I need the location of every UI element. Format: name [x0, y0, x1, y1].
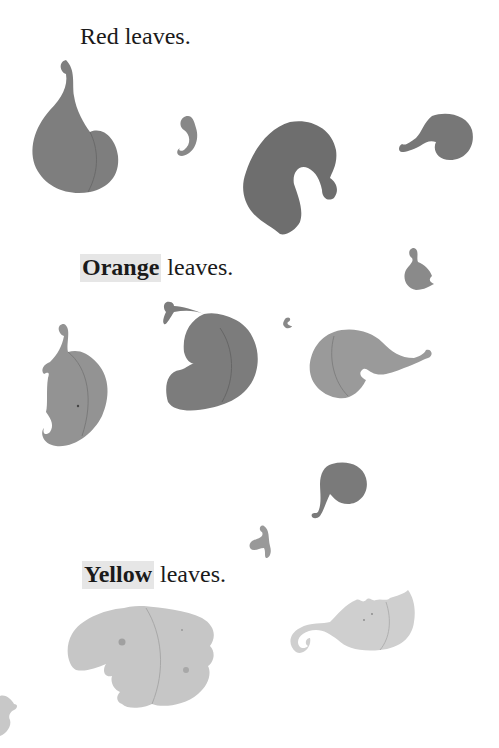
red-leaf-small-curl-icon — [174, 114, 204, 158]
yellow-leaf-large-icon — [66, 604, 220, 710]
orange-leaf-round-stem-icon — [160, 298, 264, 414]
yellow-leaf-curl-tail-icon — [290, 590, 418, 656]
orange-leaf-small-curl-icon — [246, 524, 274, 560]
caption-text: Red leaves. — [80, 23, 191, 49]
yellow-leaf-edge-fragment-icon — [0, 694, 20, 738]
caption-highlight-word: Yellow — [82, 561, 154, 589]
red-leaf-large-icon — [28, 58, 123, 198]
orange-leaf-tiny-icon — [400, 246, 436, 292]
orange-leaf-curl-tail-icon — [304, 328, 434, 406]
caption-orange-leaves: Orange leaves. — [82, 253, 233, 281]
caption-red-leaves: Red leaves. — [80, 22, 191, 50]
caption-text: leaves. — [154, 561, 226, 587]
caption-highlight-word: Orange — [80, 254, 161, 282]
orange-leaf-tall-icon — [36, 320, 112, 450]
caption-text: leaves. — [161, 254, 233, 280]
red-leaf-small-stem-icon — [396, 112, 476, 166]
caption-yellow-leaves: Yellow leaves. — [84, 560, 226, 588]
red-leaf-medium-icon — [240, 118, 352, 240]
orange-leaf-dark-curl-icon — [308, 460, 370, 522]
orange-leaf-fragment-icon — [282, 316, 294, 330]
